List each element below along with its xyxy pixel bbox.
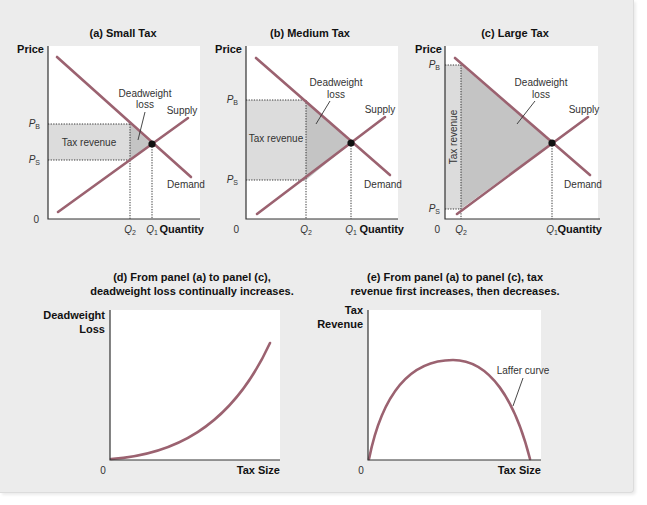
panel-c-large-tax: (c) Large Tax Price 0 Quantity Supply De… [415, 27, 603, 236]
panel-d-deadweight-loss: (d) From panel (a) to panel (c), deadwei… [43, 271, 294, 476]
panel-b-medium-tax: (b) Medium Tax Price 0 Quantity Supply D… [215, 27, 405, 236]
x-axis-label: Quantity [359, 223, 404, 235]
equilibrium-point [347, 139, 354, 146]
supply-label: Supply [569, 104, 600, 115]
q1-label: Q1 [146, 224, 158, 236]
y-axis-label-line2: Loss [79, 323, 105, 335]
deadweight-label: Deadweight [515, 77, 568, 88]
plot-area [110, 310, 280, 460]
panel-title: (b) Medium Tax [270, 27, 351, 39]
laffer-curve-label: Laffer curve [497, 365, 550, 376]
ps-label: PS [227, 174, 239, 186]
panel-title: (c) Large Tax [481, 27, 550, 39]
supply-label: Supply [365, 104, 396, 115]
demand-label: Demand [364, 179, 402, 190]
origin-label: 0 [100, 465, 106, 476]
deadweight-label: Deadweight [119, 88, 172, 99]
loss-label: loss [327, 89, 345, 100]
x-axis-label: Quantity [159, 223, 204, 235]
equilibrium-point [548, 139, 555, 146]
y-axis-label-line1: Tax [345, 304, 364, 316]
tax-revenue-label: Tax revenue [249, 133, 304, 144]
demand-label: Demand [167, 179, 205, 190]
origin-label: 0 [434, 224, 440, 235]
x-axis-label: Tax Size [237, 464, 280, 476]
deadweight-label: Deadweight [310, 77, 363, 88]
panel-a-small-tax: (a) Small Tax Price 0 Quantity Supply De… [17, 27, 205, 236]
q1-label: Q1 [546, 224, 558, 236]
loss-label: loss [136, 99, 154, 110]
y-axis-label: Price [415, 43, 442, 55]
demand-label: Demand [564, 179, 602, 190]
q2-label: Q2 [455, 224, 467, 236]
pb-label: PB [29, 118, 41, 130]
y-axis-label: Price [17, 43, 44, 55]
tax-revenue-label: Tax revenue [448, 109, 459, 164]
pb-label: PB [227, 94, 239, 106]
panel-title-line2: revenue first increases, then decreases. [350, 285, 559, 297]
figure-svg: .curve{stroke:#9b6270;stroke-width:2.6;f… [0, 0, 647, 505]
plot-area [368, 310, 541, 460]
equilibrium-point [148, 140, 155, 147]
y-axis-label-line1: Deadweight [43, 309, 105, 321]
panel-title-line1: (d) From panel (a) to panel (c), [113, 271, 271, 283]
loss-label: loss [532, 89, 550, 100]
pb-label: PB [429, 59, 441, 71]
q2-label: Q2 [300, 224, 312, 236]
ps-label: PS [29, 154, 41, 166]
panel-title-line1: (e) From panel (a) to panel (c), tax [367, 271, 544, 283]
origin-label: 0 [33, 214, 39, 225]
origin-label: 0 [358, 465, 364, 476]
q2-label: Q2 [124, 224, 136, 236]
panel-e-laffer-curve: (e) From panel (a) to panel (c), tax rev… [317, 271, 559, 476]
y-axis-label: Price [215, 43, 242, 55]
y-axis-label-line2: Revenue [317, 318, 363, 330]
panel-title: (a) Small Tax [89, 27, 157, 39]
figure: .curve{stroke:#9b6270;stroke-width:2.6;f… [0, 0, 647, 505]
origin-label: 0 [233, 224, 239, 235]
panel-title-line2: deadweight loss continually increases. [90, 285, 294, 297]
x-axis-label: Quantity [557, 223, 602, 235]
supply-label: Supply [167, 105, 198, 116]
ps-label: PS [429, 203, 441, 215]
q1-label: Q1 [345, 224, 357, 236]
x-axis-label: Tax Size [498, 464, 541, 476]
tax-revenue-label: Tax revenue [62, 137, 117, 148]
